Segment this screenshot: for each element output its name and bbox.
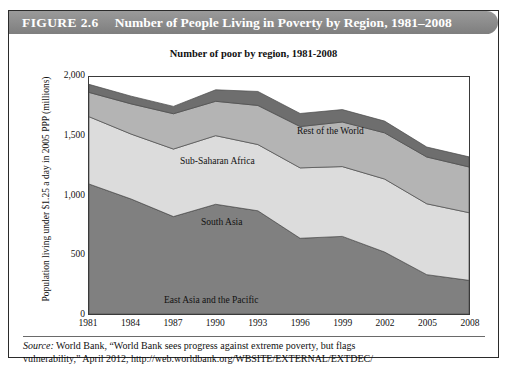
x-tick-label: 2005: [418, 318, 437, 328]
source-line-2: vulnerability,” April 2012, http://web.w…: [23, 353, 373, 364]
x-tick-label: 1987: [163, 318, 182, 328]
y-tick-label: 500: [41, 250, 85, 260]
series-label-east-asia-and-the-pacific: East Asia and the Pacific: [164, 295, 258, 305]
series-label-sub-saharan-africa: Sub-Saharan Africa: [180, 156, 255, 166]
figure-number: FIGURE 2.6: [9, 15, 99, 31]
x-tick-label: 1981: [79, 318, 98, 328]
series-label-rest-of-the-world: Rest of the World: [297, 126, 364, 136]
source-divider: [23, 336, 485, 337]
x-tick-label: 1984: [121, 318, 140, 328]
source-note: Source: World Bank, “World Bank sees pro…: [23, 340, 493, 365]
series-label-south-asia: South Asia: [201, 217, 242, 227]
x-tick-label: 2008: [461, 318, 480, 328]
stacked-area-plot: [89, 77, 469, 314]
x-axis-ticks: 1981198419871990199319961999200220052008: [88, 318, 470, 334]
x-tick-label: 2002: [376, 318, 395, 328]
plot-frame: [88, 76, 470, 315]
x-tick-label: 1996: [291, 318, 310, 328]
y-axis-ticks: 05001,0001,5002,000: [37, 76, 85, 315]
y-tick-label: 1,500: [41, 131, 85, 141]
x-tick-label: 1993: [248, 318, 267, 328]
x-tick-label: 1990: [206, 318, 225, 328]
x-tick-label: 1999: [333, 318, 352, 328]
y-tick-label: 1,000: [41, 191, 85, 201]
chart-title: Number of poor by region, 1981-2008: [9, 48, 498, 59]
source-line-1: World Bank, “World Bank sees progress ag…: [54, 340, 356, 351]
chart-area: Number of poor by region, 1981-2008 Popu…: [9, 36, 498, 328]
source-prefix: Source:: [23, 340, 54, 351]
figure-title-banner: FIGURE 2.6 Number of People Living in Po…: [9, 11, 498, 34]
figure-title: Number of People Living in Poverty by Re…: [99, 15, 452, 31]
y-tick-label: 2,000: [41, 71, 85, 81]
